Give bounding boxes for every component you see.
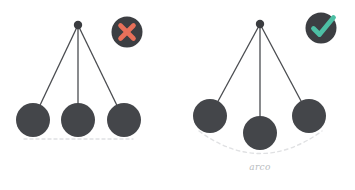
pendulum-comparison-figure: arco [0, 0, 355, 190]
diagram-canvas [0, 0, 355, 190]
panel-correct [193, 13, 337, 154]
badge-incorrect [112, 17, 143, 48]
badge-correct [306, 13, 337, 44]
bob-left [193, 99, 227, 133]
bob-center [61, 103, 95, 137]
bob-right [107, 103, 141, 137]
panel-incorrect [16, 17, 143, 140]
bob-left [16, 103, 50, 137]
pivot-point [74, 21, 82, 29]
bob-center [243, 116, 277, 150]
arc-caption-label: arco [238, 162, 282, 172]
pivot-point [256, 20, 264, 28]
bob-right [292, 99, 326, 133]
